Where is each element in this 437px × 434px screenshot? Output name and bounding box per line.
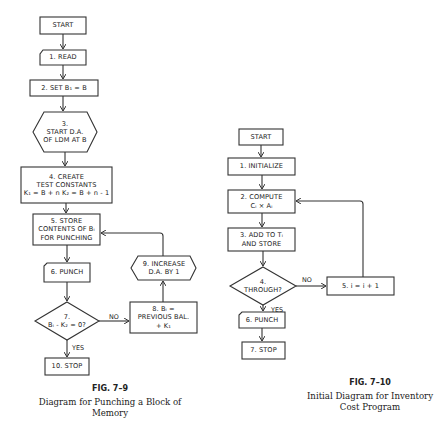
compute-label-1: 2. COMPUTE <box>241 193 283 201</box>
start-node: START <box>40 17 86 34</box>
initialize-label: 1. INITIALIZE <box>240 162 283 170</box>
create-label-2: TEST CONSTANTS <box>37 181 97 189</box>
through-decision-node: 4. THROUGH? <box>233 271 293 301</box>
compute-label-2: Cᵢ × Aᵢ <box>251 202 273 210</box>
stop-node: 10. STOP <box>45 358 89 375</box>
create-label-3: K₁ = B + n K₂ = B + n - 1 <box>24 189 110 197</box>
read-node: 1. READ <box>40 50 86 65</box>
caption-2-line-2: Cost Program <box>270 402 437 413</box>
read-label: 1. READ <box>49 53 76 61</box>
no-edge-label: NO <box>109 313 119 321</box>
initialize-node: 1. INITIALIZE <box>228 158 295 175</box>
figure-caption: Diagram for Punching a Block of Memory <box>10 397 210 419</box>
figure-caption-2: Initial Diagram for Inventory Cost Progr… <box>270 391 437 413</box>
add-store-label-1: 3. ADD TO Tᵢ <box>240 231 283 239</box>
increment-label: 5. i = i + 1 <box>342 282 379 290</box>
decision-label-1: 7. <box>64 313 71 321</box>
set-node: 2. SET B₁ = B <box>30 80 98 96</box>
no-edge-label-2: NO <box>302 276 312 284</box>
through-label-2: THROUGH? <box>244 286 282 294</box>
caption-line-2: Memory <box>10 408 210 419</box>
store-contents-node: 5. STORE CONTENTS OF Bᵢ FOR PUNCHING <box>33 214 100 245</box>
start-da-label-1: 3. <box>62 120 69 128</box>
caption-line-1: Diagram for Punching a Block of <box>10 397 210 408</box>
through-label-1: 4. <box>260 278 267 286</box>
add-store-label-2: AND STORE <box>242 240 282 248</box>
start-da-label-3: OF LDM AT B <box>43 136 86 144</box>
start-da-node: 3. START D.A. OF LDM AT B <box>35 112 95 152</box>
decision-label-2: Bᵢ - K₂ = 0? <box>48 321 86 329</box>
compute-node: 2. COMPUTE Cᵢ × Aᵢ <box>228 190 295 213</box>
caption-2-line-1: Initial Diagram for Inventory <box>270 391 437 402</box>
yes-edge-label: YES <box>72 344 84 352</box>
punch-node: 6. PUNCH <box>44 263 90 282</box>
store-label-2: CONTENTS OF Bᵢ <box>38 225 94 233</box>
increase-label-2: D.A. BY 1 <box>148 268 179 276</box>
yes-edge-label-2: YES <box>271 306 283 314</box>
stop-label-2: 7. STOP <box>250 346 276 354</box>
punch-node-2: 6. PUNCH <box>239 312 285 328</box>
previous-bal-label-1: 8. Bᵢ = <box>152 305 174 313</box>
stop-node-2: 7. STOP <box>242 342 285 359</box>
punch-label: 6. PUNCH <box>51 268 83 276</box>
set-label: 2. SET B₁ = B <box>41 84 87 92</box>
increase-label-1: 9. INCREASE <box>143 260 186 268</box>
start-node-2: START <box>239 129 283 145</box>
create-label-1: 4. CREATE <box>49 173 84 181</box>
decision-node: 7. Bᵢ - K₂ = 0? <box>37 304 97 338</box>
increase-da-node: 9. INCREASE D.A. BY 1 <box>133 256 195 280</box>
stop-label: 10. STOP <box>52 362 83 370</box>
figure-number: FIG. 7–9 <box>60 384 160 393</box>
previous-bal-node: 8. Bᵢ = PREVIOUS BAL. + K₁ <box>130 302 197 333</box>
start-label: START <box>53 21 74 29</box>
increment-node: 5. i = i + 1 <box>327 277 394 295</box>
start-da-label-2: START D.A. <box>46 128 83 136</box>
previous-bal-label-2: PREVIOUS BAL. <box>138 313 190 321</box>
punch-label-2: 6. PUNCH <box>246 316 278 324</box>
previous-bal-label-3: + K₁ <box>156 322 171 330</box>
start-label-2: START <box>251 133 272 141</box>
create-constants-node: 4. CREATE TEST CONSTANTS K₁ = B + n K₂ =… <box>21 167 112 203</box>
store-label-1: 5. STORE <box>51 217 82 225</box>
figure-number-2: FIG. 7–10 <box>320 378 420 387</box>
store-label-3: FOR PUNCHING <box>40 234 92 242</box>
add-store-node: 3. ADD TO Tᵢ AND STORE <box>228 228 295 251</box>
